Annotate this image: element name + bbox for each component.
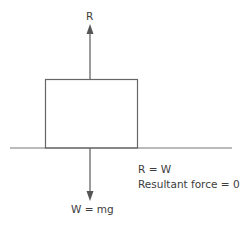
- reaction-force-arrow: [87, 24, 94, 80]
- free-body-diagram: [0, 0, 245, 226]
- arrowhead-up-icon: [87, 24, 94, 34]
- resultant-force-statement: Resultant force = 0: [138, 179, 240, 190]
- arrowhead-down-icon: [87, 191, 94, 201]
- reaction-force-label: R: [86, 11, 93, 22]
- block: [46, 80, 138, 149]
- weight-arrow: [87, 148, 94, 201]
- equilibrium-equation: R = W: [138, 164, 171, 175]
- weight-label: W = mg: [71, 204, 114, 215]
